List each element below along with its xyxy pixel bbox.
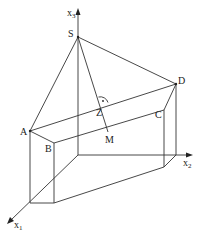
label-B: B [45, 143, 52, 154]
point-A [29, 130, 31, 132]
x1-axis [11, 155, 78, 220]
label-C: C [155, 109, 162, 120]
edge-S-M [78, 37, 108, 132]
edge-A-B [30, 131, 54, 143]
x3-arrowhead [76, 8, 81, 15]
point-S [77, 36, 79, 38]
labels: x3 x2 x1 S D A B C Z M [14, 7, 192, 232]
edge-bottom-long [54, 167, 164, 203]
x1-axis-label: x1 [14, 219, 23, 232]
pyramid-diagram: x3 x2 x1 S D A B C Z M [0, 0, 201, 232]
edge-A-D [30, 84, 176, 131]
point-D [175, 83, 177, 85]
right-angle-mark [99, 97, 109, 103]
label-Z: Z [96, 107, 102, 118]
label-S: S [68, 28, 74, 39]
edge-S-D [78, 37, 176, 84]
edge-S-A [30, 37, 78, 131]
x2-axis-label: x2 [183, 157, 192, 170]
label-M: M [105, 134, 114, 145]
label-A: A [20, 126, 28, 137]
edge-C-D [164, 84, 176, 110]
label-D: D [178, 75, 185, 86]
edge-bottom-right [164, 155, 176, 167]
x3-axis-label: x3 [67, 7, 76, 20]
